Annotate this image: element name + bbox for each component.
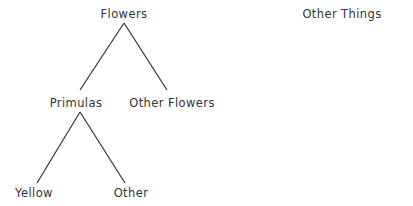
edge-flowers-other-flowers bbox=[124, 23, 167, 90]
node-flowers: Flowers bbox=[101, 7, 148, 21]
node-yellow: Yellow bbox=[14, 186, 53, 200]
nodes: Flowers Other Things Primulas Other Flow… bbox=[14, 7, 382, 200]
node-other: Other bbox=[114, 186, 149, 200]
node-other-things: Other Things bbox=[302, 7, 381, 21]
node-other-flowers: Other Flowers bbox=[129, 96, 215, 110]
edge-flowers-primulas bbox=[80, 23, 124, 90]
edge-primulas-other bbox=[80, 112, 125, 183]
tree-diagram: Flowers Other Things Primulas Other Flow… bbox=[0, 0, 413, 206]
node-primulas: Primulas bbox=[50, 96, 103, 110]
edge-primulas-yellow bbox=[37, 112, 80, 183]
